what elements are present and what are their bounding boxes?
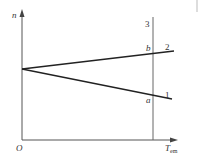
x-axis-label: Tem: [165, 143, 178, 154]
point-b-label: b: [146, 43, 151, 53]
line-1-label: 1: [165, 90, 170, 100]
y-axis-arrow-icon: [20, 9, 25, 17]
line-3-label: 3: [145, 19, 150, 29]
speed-torque-diagram: n O Tem 3 2 1 b a: [0, 0, 200, 160]
line-2: [22, 51, 174, 69]
x-axis-arrow-icon: [170, 138, 178, 143]
origin-label: O: [16, 143, 23, 153]
line-2-label: 2: [165, 42, 170, 52]
y-axis-label: n: [12, 10, 17, 20]
point-a-label: a: [146, 95, 151, 105]
